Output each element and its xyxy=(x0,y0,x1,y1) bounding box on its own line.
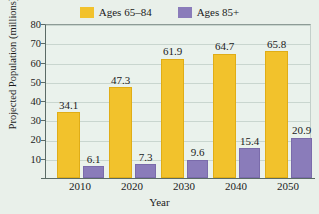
x-tick-label-2030: 2030 xyxy=(159,181,209,192)
y-tick-mark-30 xyxy=(41,120,45,121)
bar-group-2040: 64.7 15.4 xyxy=(213,24,260,178)
chart-legend: Ages 65–84 Ages 85+ xyxy=(0,2,319,22)
x-axis-title: Year xyxy=(0,196,319,208)
x-axis-line xyxy=(41,178,315,179)
bar-value-ages-65-84-2020: 47.3 xyxy=(108,75,133,86)
y-tick-mark-70 xyxy=(41,43,45,44)
bar-chart: Ages 65–84 Ages 85+ Projected Population… xyxy=(0,0,319,214)
legend-swatch-ages-85-plus xyxy=(178,7,192,18)
bar-value-ages-65-84-2010: 34.1 xyxy=(56,100,81,111)
y-tick-label-50: 50 xyxy=(19,78,41,88)
bar-group-2020: 47.3 7.3 xyxy=(109,24,156,178)
bar-value-ages-85-plus-2030: 9.6 xyxy=(186,147,209,158)
bar-group-2010: 34.1 6.1 xyxy=(57,24,104,178)
legend-swatch-ages-65-84 xyxy=(80,7,94,18)
y-tick-label-80: 80 xyxy=(19,20,41,30)
x-tick-label-2050: 2050 xyxy=(263,181,313,192)
y-tick-mark-10 xyxy=(41,159,45,160)
y-tick-label-60: 60 xyxy=(19,59,41,69)
legend-item-ages-65-84: Ages 65–84 xyxy=(80,7,152,18)
bar-groups: 34.1 6.1 47.3 7.3 61.9 9.6 64.7 15.4 65.… xyxy=(46,24,311,178)
y-tick-mark-80 xyxy=(41,24,45,25)
bar-ages-65-84-2040 xyxy=(213,54,236,179)
y-tick-mark-20 xyxy=(41,140,45,141)
legend-label-ages-65-84: Ages 65–84 xyxy=(99,7,152,18)
x-tick-label-2010: 2010 xyxy=(55,181,105,192)
bar-value-ages-85-plus-2020: 7.3 xyxy=(134,152,157,163)
bar-ages-85-plus-2020 xyxy=(135,164,156,178)
y-tick-mark-40 xyxy=(41,101,45,102)
bar-ages-85-plus-2050 xyxy=(291,138,312,178)
y-tick-label-20: 20 xyxy=(19,135,41,145)
bar-value-ages-65-84-2050: 65.8 xyxy=(264,39,289,50)
bar-ages-85-plus-2010 xyxy=(83,166,104,178)
x-tick-label-2020: 2020 xyxy=(107,181,157,192)
bar-ages-65-84-2030 xyxy=(161,59,184,178)
bar-ages-65-84-2010 xyxy=(57,112,80,178)
legend-item-ages-85-plus: Ages 85+ xyxy=(178,7,240,18)
y-tick-mark-60 xyxy=(41,63,45,64)
bar-ages-65-84-2050 xyxy=(265,51,288,178)
y-tick-label-70: 70 xyxy=(19,39,41,49)
bar-group-2030: 61.9 9.6 xyxy=(161,24,208,178)
y-tick-mark-50 xyxy=(41,82,45,83)
bar-value-ages-85-plus-2040: 15.4 xyxy=(238,136,261,147)
x-tick-label-2040: 2040 xyxy=(211,181,261,192)
y-axis-title: Projected Population (millions) xyxy=(7,0,18,139)
bar-ages-85-plus-2030 xyxy=(187,160,208,179)
bar-value-ages-65-84-2040: 64.7 xyxy=(212,41,237,52)
bar-value-ages-85-plus-2050: 20.9 xyxy=(290,125,313,136)
bar-ages-65-84-2020 xyxy=(109,87,132,178)
y-tick-label-40: 40 xyxy=(19,97,41,107)
legend-label-ages-85-plus: Ages 85+ xyxy=(197,7,240,18)
bar-value-ages-85-plus-2010: 6.1 xyxy=(82,154,105,165)
bar-group-2050: 65.8 20.9 xyxy=(265,24,312,178)
bar-value-ages-65-84-2030: 61.9 xyxy=(160,46,185,57)
y-tick-label-30: 30 xyxy=(19,116,41,126)
y-tick-label-10: 10 xyxy=(19,155,41,165)
bar-ages-85-plus-2040 xyxy=(239,148,260,178)
